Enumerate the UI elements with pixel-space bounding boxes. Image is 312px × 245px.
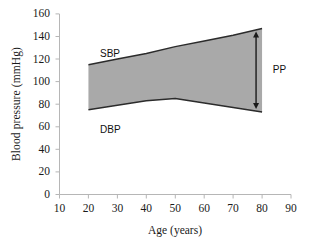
y-tick-label-0: 0 <box>10 189 50 201</box>
x-tick-label-30: 30 <box>102 203 132 215</box>
x-tick-label-90: 90 <box>276 203 306 215</box>
sbp-annotation-label: SBP <box>100 49 120 59</box>
y-tick-marks <box>56 14 60 195</box>
dbp-annotation-label: DBP <box>100 125 121 135</box>
x-tick-label-50: 50 <box>160 203 190 215</box>
x-tick-label-20: 20 <box>73 203 103 215</box>
x-tick-label-70: 70 <box>218 203 248 215</box>
y-tick-label-20: 20 <box>10 166 50 178</box>
y-tick-label-80: 80 <box>10 99 50 111</box>
y-tick-label-60: 60 <box>10 121 50 133</box>
x-tick-label-40: 40 <box>131 203 161 215</box>
y-tick-label-120: 120 <box>10 54 50 66</box>
x-tick-label-80: 80 <box>247 203 277 215</box>
x-tick-marks <box>60 195 292 199</box>
y-tick-label-140: 140 <box>10 31 50 43</box>
x-tick-label-60: 60 <box>189 203 219 215</box>
chart-figure: Blood pressure (mmHg) Age (years) 0 20 4… <box>0 0 312 245</box>
bp-band-fill <box>88 29 262 113</box>
pp-annotation-label: PP <box>273 65 286 75</box>
x-tick-label-10: 10 <box>45 203 75 215</box>
y-tick-label-160: 160 <box>10 8 50 20</box>
x-axis-title: Age (years) <box>0 224 312 236</box>
y-tick-label-40: 40 <box>10 144 50 156</box>
y-tick-label-100: 100 <box>10 76 50 88</box>
